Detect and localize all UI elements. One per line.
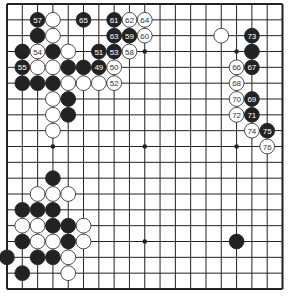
black-stone-circle [0,250,14,265]
black-stone[interactable]: 49 [91,60,106,75]
white-stone[interactable]: 60 [137,28,152,43]
black-stone[interactable]: 63 [107,28,122,43]
white-stone[interactable] [46,28,61,43]
white-stone-circle [214,28,229,43]
black-stone[interactable] [76,60,91,75]
move-number-label: 61 [110,16,119,25]
white-stone[interactable] [46,107,61,122]
black-stone[interactable] [15,202,30,217]
black-stone[interactable]: 75 [260,123,275,138]
white-stone[interactable] [61,44,76,59]
move-number-label: 67 [247,63,256,72]
white-stone[interactable]: 62 [122,12,137,27]
black-stone[interactable]: 59 [122,28,137,43]
black-stone[interactable] [15,76,30,91]
white-stone-circle [30,187,45,202]
white-stone-circle [76,234,91,249]
white-stone[interactable] [214,28,229,43]
white-stone[interactable]: 72 [229,107,244,122]
move-number-label: 62 [125,16,134,25]
move-number-label: 69 [247,95,256,104]
black-stone[interactable] [61,234,76,249]
white-stone[interactable] [46,60,61,75]
white-stone[interactable] [46,92,61,107]
black-stone-circle [46,76,61,91]
go-board[interactable]: 5765616264635960735451535855495066675268… [0,0,289,297]
white-stone[interactable] [46,123,61,138]
white-stone[interactable] [61,76,76,91]
black-stone[interactable] [46,218,61,233]
black-stone[interactable] [46,202,61,217]
black-stone[interactable]: 55 [15,60,30,75]
move-number-label: 49 [94,63,103,72]
black-stone[interactable] [30,28,45,43]
black-stone[interactable] [0,250,14,265]
black-stone-circle [15,44,30,59]
black-stone[interactable]: 51 [91,44,106,59]
black-stone[interactable] [61,218,76,233]
white-stone[interactable] [76,218,91,233]
black-stone-circle [30,76,45,91]
black-stone-circle [46,250,61,265]
white-stone[interactable] [46,187,61,202]
black-stone[interactable]: 71 [244,107,259,122]
move-number-label: 66 [232,63,241,72]
black-stone[interactable] [46,76,61,91]
white-stone[interactable]: 64 [137,12,152,27]
black-stone[interactable]: 57 [30,12,45,27]
white-stone[interactable] [46,234,61,249]
black-stone[interactable]: 65 [76,12,91,27]
white-stone[interactable] [76,76,91,91]
black-stone[interactable] [46,171,61,186]
white-stone[interactable] [46,12,61,27]
white-stone[interactable]: 58 [122,44,137,59]
white-stone[interactable]: 76 [260,139,275,154]
black-stone[interactable]: 73 [244,28,259,43]
white-stone[interactable] [76,234,91,249]
white-stone[interactable]: 50 [107,60,122,75]
black-stone[interactable] [15,44,30,59]
white-stone[interactable] [91,76,106,91]
black-stone[interactable]: 69 [244,92,259,107]
white-stone-circle [46,60,61,75]
black-stone[interactable] [61,60,76,75]
black-stone[interactable] [15,266,30,281]
white-stone[interactable] [15,218,30,233]
white-stone[interactable] [30,218,45,233]
black-stone[interactable]: 61 [107,12,122,27]
black-stone[interactable] [46,250,61,265]
black-stone[interactable] [46,44,61,59]
black-stone[interactable]: 53 [107,44,122,59]
white-stone[interactable]: 74 [244,123,259,138]
black-stone[interactable] [30,250,45,265]
white-stone[interactable]: 68 [229,76,244,91]
black-stone[interactable] [30,202,45,217]
move-number-label: 60 [140,32,149,41]
white-stone[interactable]: 52 [107,76,122,91]
star-point [142,49,147,54]
star-point [51,144,56,149]
white-stone-circle [15,218,30,233]
black-stone[interactable] [15,234,30,249]
white-stone[interactable] [61,187,76,202]
white-stone[interactable]: 54 [30,44,45,59]
white-stone[interactable]: 70 [229,92,244,107]
white-stone-circle [46,12,61,27]
black-stone[interactable] [61,92,76,107]
white-stone-circle [46,28,61,43]
white-stone-circle [61,76,76,91]
move-number-label: 50 [110,63,119,72]
white-stone[interactable] [61,250,76,265]
black-stone[interactable] [229,234,244,249]
black-stone[interactable] [30,76,45,91]
black-stone-circle [30,28,45,43]
white-stone[interactable] [30,60,45,75]
black-stone-circle [15,76,30,91]
white-stone[interactable]: 66 [229,60,244,75]
black-stone[interactable] [61,107,76,122]
white-stone[interactable] [61,266,76,281]
white-stone[interactable] [30,187,45,202]
black-stone[interactable]: 67 [244,60,259,75]
white-stone[interactable] [30,234,45,249]
black-stone[interactable] [244,44,259,59]
